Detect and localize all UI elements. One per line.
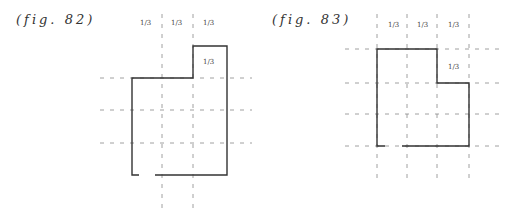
fig82-inner-label: 1/3 [203, 58, 214, 66]
fig82-top-label-1: 1/3 [140, 19, 151, 27]
fig83-inner-label: 1/3 [448, 63, 459, 71]
fig82-top-label-3: 1/3 [203, 19, 214, 27]
fig82-top-label-2: 1/3 [171, 19, 182, 27]
fig83-top-label-3: 1/3 [448, 21, 459, 29]
figure-82: 1/3 1/3 1/3 1/3 [100, 14, 252, 208]
fig83-grid [345, 14, 500, 180]
fig83-top-label-1: 1/3 [388, 21, 399, 29]
diagram-canvas: 1/3 1/3 1/3 1/3 1/3 1/3 1/3 1/3 [0, 0, 512, 217]
fig82-grid [100, 14, 252, 208]
fig83-top-label-2: 1/3 [417, 21, 428, 29]
figure-83: 1/3 1/3 1/3 1/3 [345, 14, 500, 180]
